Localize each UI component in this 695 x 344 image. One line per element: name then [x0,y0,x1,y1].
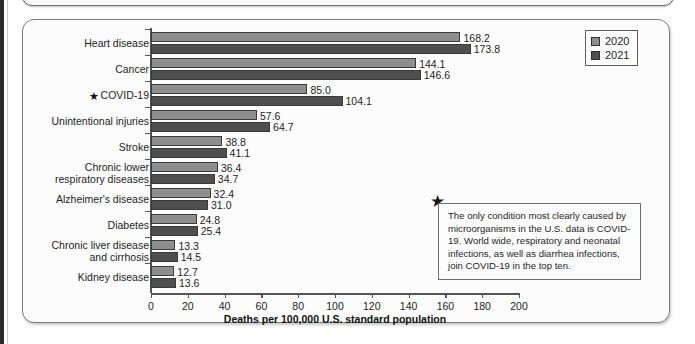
category-label: Kidney disease [78,272,149,284]
x-axis-title: Deaths per 100,000 U.S. standard populat… [151,313,519,325]
x-tick-label: 160 [437,300,455,312]
bar-2021 [151,252,178,262]
bar-value-label: 38.8 [225,137,245,147]
bar-value-label: 146.6 [424,70,450,80]
bar-2020 [151,240,175,250]
legend-item-2020: 2020 [591,34,629,48]
category-label-line: Heart disease [84,37,149,49]
bar-2021 [151,96,343,106]
bar-2021 [151,148,227,158]
x-tick-label: 180 [473,300,491,312]
page-left-edge-rule [7,0,8,344]
category-label-line: Unintentional injuries [52,115,149,127]
x-tick-label: 60 [256,300,268,312]
category-label-line: and cirrhosis [89,251,149,263]
bar-2021 [151,122,270,132]
bar-value-label: 173.8 [474,44,500,54]
x-tick-mark [151,293,152,298]
annotation-box: The only condition most clearly caused b… [438,203,641,280]
category-label: Unintentional injuries [52,116,149,128]
x-tick-label: 20 [182,300,194,312]
bar-2020 [151,32,460,42]
bar-value-label: 12.7 [177,267,197,277]
bar-value-label: 57.6 [260,111,280,121]
y-tick-mark [145,133,150,134]
y-tick-mark [145,29,150,30]
bar-value-label: 144.1 [419,59,445,69]
category-label-line: COVID-19 [101,89,149,101]
x-tick-mark [298,293,299,298]
category-label-line: Chronic liver disease [52,239,149,251]
bar-value-label: 13.3 [178,241,198,251]
bar-value-label: 168.2 [463,33,489,43]
x-tick-mark [335,293,336,298]
bar-2021 [151,70,421,80]
bar-2020 [151,214,197,224]
category-label-line: Chronic lower [85,161,149,173]
category-label-line: Stroke [119,141,149,153]
category-label-line: Diabetes [108,219,149,231]
category-label: Heart disease [84,38,149,50]
category-label: Cancer [115,64,149,76]
y-tick-mark [145,107,150,108]
legend-item-2021: 2021 [591,48,629,62]
category-label: Diabetes [108,220,149,232]
x-tick-mark [261,293,262,298]
partial-box-above [22,0,674,6]
y-tick-mark [145,55,150,56]
bar-value-label: 85.0 [310,85,330,95]
category-label: ★COVID-19 [89,90,149,103]
x-tick-label: 120 [363,300,381,312]
bar-value-label: 13.6 [179,278,199,288]
category-label: Chronic liver diseaseand cirrhosis [52,240,149,263]
category-label-line: Cancer [115,63,149,75]
bar-2021 [151,200,208,210]
bar-value-label: 31.0 [211,200,231,210]
x-tick-label: 0 [148,300,154,312]
bar-value-label: 25.4 [201,226,221,236]
bar-value-label: 32.4 [214,189,234,199]
legend-swatch-2021-icon [591,51,600,60]
bar-2020 [151,162,218,172]
y-tick-mark [145,263,150,264]
bar-value-label: 14.5 [181,252,201,262]
bar-2021 [151,44,471,54]
y-tick-mark [145,159,150,160]
category-label: Stroke [119,142,149,154]
bar-2021 [151,174,215,184]
bar-2020 [151,136,222,146]
bar-2020 [151,58,416,68]
bar-value-label: 36.4 [221,163,241,173]
bar-2020 [151,84,307,94]
bar-value-label: 24.8 [200,215,220,225]
figure-panel: 020406080100120140160180200 Heart diseas… [22,19,670,323]
x-tick-mark [225,293,226,298]
x-tick-label: 100 [326,300,344,312]
y-tick-mark [145,237,150,238]
bar-chart: 020406080100120140160180200 Heart diseas… [23,20,671,324]
y-tick-mark [145,211,150,212]
x-tick-mark [409,293,410,298]
x-tick-label: 40 [219,300,231,312]
bar-2021 [151,278,176,288]
category-label: Chronic lowerrespiratory diseases [55,162,149,185]
y-tick-mark [145,185,150,186]
x-tick-label: 200 [510,300,528,312]
category-label-line: Alzheimer's disease [56,193,149,205]
bar-2021 [151,226,198,236]
bar-2020 [151,188,211,198]
legend-label-2020: 2020 [605,34,629,48]
bar-value-label: 34.7 [218,174,238,184]
bar-value-label: 64.7 [273,122,293,132]
y-tick-mark [145,81,150,82]
bar-2020 [151,266,174,276]
x-tick-mark [482,293,483,298]
x-tick-mark [445,293,446,298]
x-tick-mark [519,293,520,298]
x-tick-mark [188,293,189,298]
covid-star-icon: ★ [89,90,99,102]
page-left-edge [0,0,4,344]
x-tick-label: 80 [292,300,304,312]
bar-value-label: 104.1 [346,96,372,106]
category-label-line: respiratory diseases [55,173,149,185]
